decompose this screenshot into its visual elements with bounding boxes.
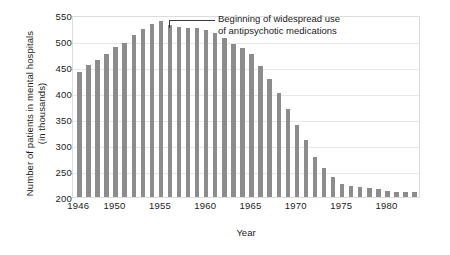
x-axis-tick-label: 1955 [149,200,171,211]
bar [122,43,126,197]
x-axis-title: Year [72,227,420,238]
bar [186,28,190,197]
bar [204,30,208,197]
bar [249,54,253,197]
bar [267,79,271,197]
bar [304,140,308,197]
bar [412,192,416,197]
bar [222,38,226,197]
x-axis-ticks: 19461950195519601965197019751980 [72,200,420,218]
y-axis-tick-label: 550 [42,11,72,22]
bar [113,47,117,197]
bar [240,48,244,197]
plot-area [72,16,420,198]
y-axis-tick-label: 400 [42,89,72,100]
bar [195,28,199,197]
annotation-label-line1: Beginning of widespread use [218,13,340,25]
bar [168,25,172,197]
annotation-leader-line [169,20,215,21]
y-axis-tick-label: 450 [42,63,72,74]
bar [349,186,353,197]
bar [322,168,326,197]
bar [177,27,181,197]
x-axis-tick-label: 1946 [67,200,89,211]
bar [394,192,398,197]
bar [331,177,335,197]
y-axis-tick-label: 500 [42,37,72,48]
bar [104,54,108,197]
bar-chart: Number of patients in mental hospitals (… [0,0,450,255]
bar [159,21,163,197]
bar [277,93,281,197]
x-axis-tick-label: 1975 [330,200,352,211]
bar [358,187,362,197]
bar [231,44,235,197]
bar [313,157,317,197]
x-axis-tick-label: 1980 [376,200,398,211]
bar [258,66,262,197]
y-axis-tick-label: 250 [42,167,72,178]
bar [86,65,90,197]
bar [403,192,407,197]
bar [385,191,389,197]
y-axis-title-line1: Number of patients in mental hospitals [24,31,35,196]
bar [367,188,371,197]
y-axis-ticks: 200250300350400450500550 [42,0,72,255]
bar [376,189,380,197]
bar [141,29,145,197]
bar [295,125,299,197]
bar [132,35,136,197]
x-axis-tick-label: 1950 [104,200,126,211]
bar [150,24,154,197]
annotation-label: Beginning of widespread use of antipsych… [218,13,340,37]
bar [95,60,99,197]
x-axis-tick-label: 1965 [240,200,262,211]
bar [286,109,290,197]
annotation-label-line2: of antipsychotic medications [218,25,340,37]
bar [213,33,217,197]
bar-series [73,17,419,197]
x-axis-tick-label: 1960 [194,200,216,211]
bar [77,72,81,197]
y-axis-tick-label: 300 [42,141,72,152]
y-axis-tick-label: 350 [42,115,72,126]
bar [340,184,344,197]
x-axis-tick-label: 1970 [285,200,307,211]
